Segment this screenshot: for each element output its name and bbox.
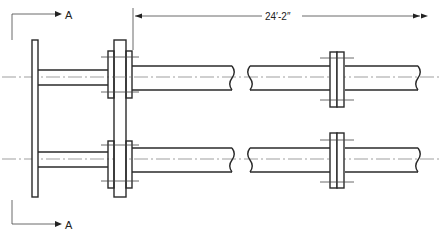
support-plate bbox=[114, 40, 126, 197]
section-marker-bottom: A bbox=[12, 200, 73, 231]
lower-pipe-segment-1 bbox=[132, 148, 234, 172]
lower-small-pipe bbox=[38, 152, 108, 167]
upper-right-flange bbox=[320, 52, 354, 107]
left-end-plate bbox=[32, 40, 38, 197]
upper-small-pipe bbox=[38, 70, 108, 85]
section-label-bottom: A bbox=[65, 219, 73, 231]
dimension-value: 24′-2″ bbox=[265, 11, 291, 22]
dimension-line: 24′-2″ bbox=[133, 8, 428, 50]
section-marker-top: A bbox=[12, 9, 73, 40]
section-label-top: A bbox=[65, 9, 73, 21]
piping-drawing: A A 24′-2″ bbox=[0, 0, 446, 239]
lower-right-flange bbox=[320, 133, 354, 188]
upper-pipe-segment-1 bbox=[132, 66, 234, 90]
